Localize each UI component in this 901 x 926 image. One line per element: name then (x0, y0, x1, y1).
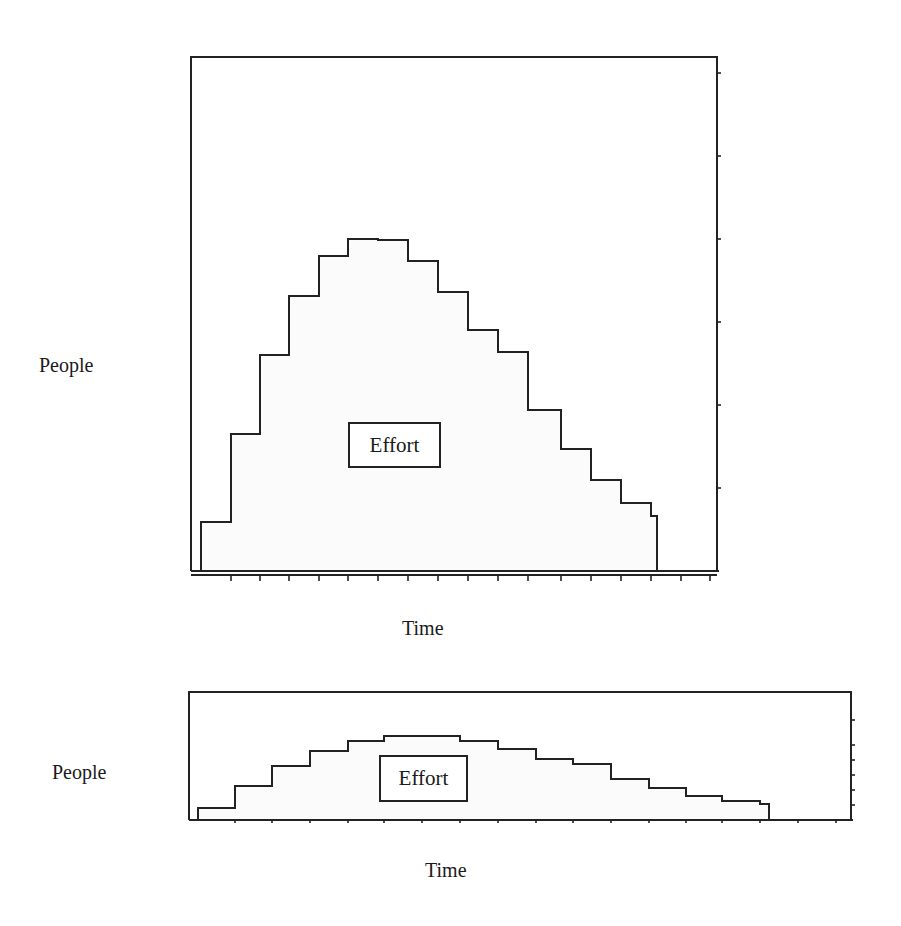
chart1-effort-step-area (201, 239, 657, 571)
chart1-y-axis-label: People (39, 355, 93, 375)
chart2-x-axis-label: Time (425, 860, 467, 880)
chart1-x-axis-label: Time (402, 618, 444, 638)
chart2-effort-step-area (198, 736, 769, 820)
chart1-effort-annotation: Effort (348, 422, 441, 468)
chart2-y-axis-label: People (52, 762, 106, 782)
chart2-effort-annotation: Effort (379, 755, 468, 802)
